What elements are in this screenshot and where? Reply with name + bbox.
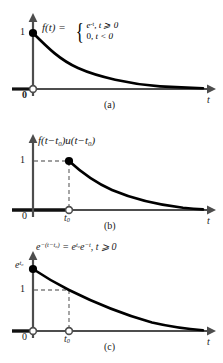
function-label-a: f(t) =	[42, 22, 66, 34]
x-tick-t0-c-sub: 0	[67, 337, 70, 344]
piecewise-group-a: { e-t, t ⩾ 0 0, t < 0	[74, 19, 118, 43]
brace-icon: {	[76, 19, 84, 43]
x-axis-label-b: t	[207, 215, 210, 226]
y-tick-1-b: 1	[20, 154, 25, 165]
open-point-origin-a	[30, 86, 37, 93]
piece-1-cond-a: , t ⩾ 0	[94, 20, 118, 30]
panel-b: 1 0 t0 t f(t−t0)u(t−t0) (b)	[0, 121, 223, 242]
x-tick-0-b: 0	[22, 210, 27, 221]
function-label-a-text: f(t) =	[42, 21, 66, 33]
function-label-b-p2: )u(t−t	[62, 134, 88, 146]
panel-label-b: (b)	[104, 220, 116, 231]
x-tick-t0-c: t0	[64, 333, 70, 344]
function-label-b: f(t−t0)u(t−t0)	[38, 135, 95, 147]
x-axis-arrow-b	[207, 206, 216, 215]
piece-2-cond-a: , t < 0	[91, 31, 113, 41]
panel-label-a: (a)	[104, 99, 115, 110]
piece-row-1-a: e-t, t ⩾ 0	[87, 20, 119, 31]
panel-c: et₀ 1 0 t0 t e−(t−t₀) = et₀e−t, t ⩾ 0 (c…	[0, 242, 223, 363]
panel-a: 1 0 t f(t) = { e-t, t ⩾ 0 0, t < 0 (a)	[0, 0, 223, 121]
panel-label-c: (c)	[104, 341, 115, 352]
filled-point-b	[65, 157, 73, 165]
x-tick-0-c: 0	[22, 331, 27, 342]
open-point-origin-c	[30, 328, 37, 335]
function-label-c-exp1: −(t−t₀)	[40, 241, 59, 248]
x-tick-t0-b: t0	[64, 212, 70, 223]
filled-point-a	[29, 29, 37, 37]
function-label-c-p4: , t ⩾ 0	[91, 241, 117, 252]
y-tick-exp-c: et₀	[15, 259, 24, 270]
figure-container: 1 0 t f(t) = { e-t, t ⩾ 0 0, t < 0 (a)	[0, 0, 223, 363]
y-tick-1-a: 1	[20, 26, 25, 37]
y-tick-exp-c-sup: t₀	[19, 259, 23, 266]
filled-point-c	[29, 265, 37, 273]
y-tick-1-c: 1	[20, 283, 25, 294]
piecewise-rows-a: e-t, t ⩾ 0 0, t < 0	[87, 20, 119, 43]
x-axis-label-c: t	[207, 336, 210, 347]
x-tick-0-a: 0	[22, 89, 27, 100]
x-axis-label-a: t	[207, 94, 210, 105]
x-tick-t0-b-sub: 0	[67, 216, 70, 223]
x-axis-arrow-c	[207, 327, 216, 336]
function-label-b-p3: )	[91, 134, 95, 146]
exponential-curve-c	[33, 269, 203, 330]
y-axis-arrow-a	[29, 13, 38, 22]
x-axis-arrow-a	[207, 85, 216, 94]
y-axis-arrow-b	[29, 134, 38, 143]
function-label-c-p2: = e	[60, 241, 76, 252]
piece-row-2-a: 0, t < 0	[87, 31, 119, 42]
function-label-c: e−(t−t₀) = et₀e−t, t ⩾ 0	[36, 242, 117, 253]
exponential-curve-b	[69, 161, 203, 209]
function-label-b-p1: f(t−t	[38, 134, 58, 146]
